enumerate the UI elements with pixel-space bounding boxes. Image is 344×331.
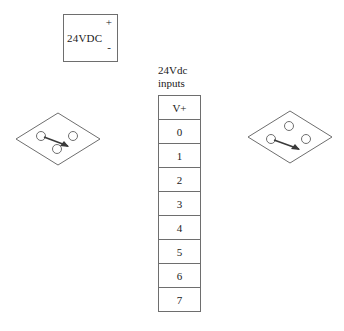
switch-right-body (248, 111, 332, 163)
power-supply-negative-terminal: - (107, 42, 111, 53)
diagram-canvas: + 24VDC - 24Vdc inputs V+01234567 (0, 0, 344, 331)
terminal-row[interactable]: 4 (159, 216, 200, 240)
switch-right-contact-1 (285, 122, 294, 131)
terminal-label: V+ (172, 102, 186, 114)
terminal-block-caption-line2: inputs (158, 77, 187, 90)
power-supply-box: + 24VDC - (63, 14, 118, 62)
terminal-label: 2 (177, 174, 183, 186)
terminal-label: 3 (177, 198, 183, 210)
terminal-row[interactable]: 5 (159, 240, 200, 264)
switch-left[interactable] (13, 108, 103, 170)
terminal-block: V+01234567 (158, 95, 201, 312)
terminal-label: 4 (177, 222, 183, 234)
terminal-row[interactable]: 3 (159, 192, 200, 216)
switch-right[interactable] (245, 106, 335, 168)
terminal-label: 5 (177, 246, 183, 258)
power-supply-label: 24VDC (67, 32, 102, 44)
terminal-row[interactable]: V+ (159, 96, 200, 120)
terminal-block-caption-line1: 24Vdc (158, 64, 187, 77)
switch-right-contact-2 (267, 135, 276, 144)
switch-right-contact-3 (302, 135, 311, 144)
switch-left-body (16, 113, 100, 165)
terminal-label: 7 (177, 294, 183, 306)
terminal-row[interactable]: 6 (159, 264, 200, 288)
terminal-row[interactable]: 1 (159, 144, 200, 168)
terminal-label: 0 (177, 126, 183, 138)
terminal-row[interactable]: 7 (159, 288, 200, 312)
power-supply-positive-terminal: + (106, 17, 112, 28)
terminal-row[interactable]: 2 (159, 168, 200, 192)
switch-left-contact-1 (37, 132, 46, 141)
terminal-block-caption: 24Vdc inputs (158, 64, 187, 90)
terminal-label: 1 (177, 150, 183, 162)
terminal-row[interactable]: 0 (159, 120, 200, 144)
switch-left-contact-2 (69, 132, 78, 141)
terminal-label: 6 (177, 270, 183, 282)
